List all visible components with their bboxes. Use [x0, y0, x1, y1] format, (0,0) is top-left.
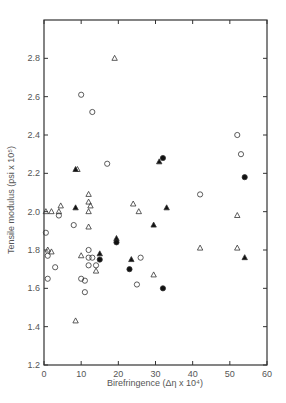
open-triangle-point	[86, 191, 91, 196]
open-triangle-point	[235, 245, 240, 250]
x-tick-label: 60	[262, 369, 272, 379]
open-circle-point	[90, 255, 95, 260]
y-tick-label: 1.6	[27, 283, 40, 293]
open-triangle-point	[58, 203, 63, 208]
axis-ticks: 01020304050601.21.41.61.82.02.22.42.62.8	[27, 20, 272, 379]
filled-triangle-point	[242, 255, 247, 260]
y-tick-label: 2.8	[27, 53, 40, 63]
y-tick-label: 1.2	[27, 360, 40, 370]
filled-circle-point	[160, 286, 165, 291]
filled-triangle-point	[151, 222, 156, 227]
plot-frame	[44, 20, 267, 365]
open-circle-point	[105, 161, 110, 166]
scatter-chart: 01020304050601.21.41.61.82.02.22.42.62.8…	[0, 0, 286, 403]
data-points	[43, 55, 247, 323]
open-circle-point	[53, 265, 58, 270]
open-circle-point	[198, 192, 203, 197]
open-circle-point	[71, 222, 76, 227]
filled-triangle-point	[129, 257, 134, 262]
open-circle-point	[86, 247, 91, 252]
y-tick-label: 2.6	[27, 92, 40, 102]
open-circle-point	[238, 152, 243, 157]
open-triangle-point	[136, 209, 141, 214]
open-circle-point	[79, 92, 84, 97]
x-tick-label: 0	[41, 369, 46, 379]
open-circle-point	[90, 109, 95, 114]
filled-circle-point	[160, 155, 165, 160]
open-circle-point	[93, 263, 98, 268]
filled-triangle-point	[97, 251, 102, 256]
open-triangle-point	[86, 209, 91, 214]
open-circle-point	[86, 263, 91, 268]
open-circle-point	[45, 276, 50, 281]
x-tick-label: 10	[76, 369, 86, 379]
open-circle-point	[138, 255, 143, 260]
open-circle-point	[235, 132, 240, 137]
y-tick-label: 2.4	[27, 130, 40, 140]
filled-triangle-point	[73, 205, 78, 210]
y-tick-label: 2.0	[27, 207, 40, 217]
open-circle-point	[134, 282, 139, 287]
x-tick-label: 50	[225, 369, 235, 379]
open-triangle-point	[112, 55, 117, 60]
open-triangle-point	[93, 268, 98, 273]
open-circle-point	[82, 290, 87, 295]
y-axis-label: Tensile modulus (psi x 10⁵)	[6, 146, 16, 254]
open-triangle-point	[78, 253, 83, 258]
y-tick-label: 1.4	[27, 322, 40, 332]
filled-circle-point	[242, 175, 247, 180]
filled-circle-point	[97, 257, 102, 262]
open-triangle-point	[131, 201, 136, 206]
open-triangle-point	[86, 224, 91, 229]
open-triangle-point	[235, 213, 240, 218]
y-tick-label: 2.2	[27, 168, 40, 178]
y-tick-label: 1.8	[27, 245, 40, 255]
x-axis-label: Birefringence (Δη x 10⁴)	[107, 378, 203, 388]
open-triangle-point	[151, 272, 156, 277]
filled-circle-point	[127, 267, 132, 272]
open-triangle-point	[49, 209, 54, 214]
filled-triangle-point	[164, 205, 169, 210]
open-triangle-point	[88, 203, 93, 208]
open-triangle-point	[73, 318, 78, 323]
open-triangle-point	[197, 245, 202, 250]
filled-circle-point	[114, 240, 119, 245]
